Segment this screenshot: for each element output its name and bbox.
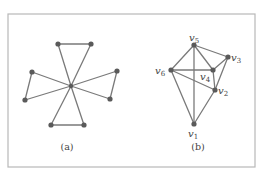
vertex <box>88 41 93 46</box>
vertex-v1 <box>191 121 196 126</box>
panel-a-caption: (a) <box>60 141 73 152</box>
vertex-v4 <box>210 67 215 72</box>
vertex-v3 <box>225 54 230 59</box>
vertex-v2 <box>212 87 217 92</box>
vertex <box>107 96 112 101</box>
vertex-v6 <box>168 67 173 72</box>
vertex <box>29 69 34 74</box>
vertex <box>48 122 53 127</box>
vertex <box>81 122 86 127</box>
graph-figure: (a) v1v2v3v4v5v6 (b) <box>0 0 266 180</box>
center-vertex <box>69 84 73 88</box>
vertex <box>114 68 119 73</box>
vertex <box>55 41 60 46</box>
vertex <box>22 97 27 102</box>
panel-b-caption: (b) <box>191 141 205 152</box>
